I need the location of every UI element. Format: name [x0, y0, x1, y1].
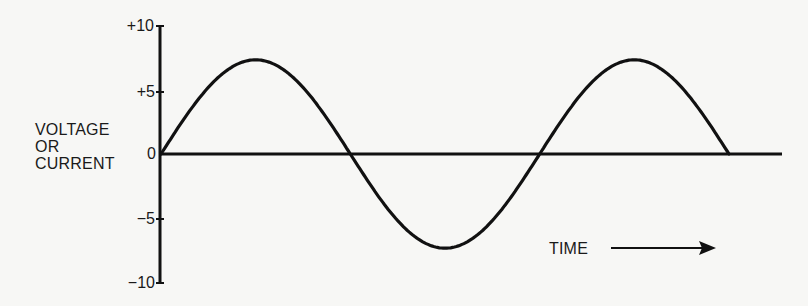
- y-axis-label: VOLTAGE OR CURRENT: [35, 121, 115, 172]
- y-axis-label-line-1: VOLTAGE: [35, 121, 115, 138]
- y-axis-label-line-3: CURRENT: [35, 155, 115, 172]
- y-axis-label-line-2: OR: [35, 138, 115, 155]
- y-tick-minus-5: −5: [95, 210, 155, 228]
- time-arrow-icon: [611, 241, 716, 255]
- y-tick-plus-5: +5: [95, 83, 155, 101]
- time-label: TIME: [549, 240, 588, 257]
- y-tick-plus-10: +10: [94, 17, 154, 35]
- y-tick-minus-10: −10: [95, 274, 155, 292]
